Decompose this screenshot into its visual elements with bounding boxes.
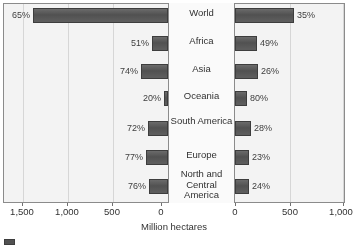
left-tick-label-1500: 1,500 — [10, 206, 34, 217]
left-bar-europe — [146, 150, 168, 165]
right-value-asia: 26% — [261, 64, 279, 79]
legend — [4, 238, 19, 246]
left-value-asia: 74% — [98, 64, 138, 79]
left-x-axis: 1,500 1,000 500 0 — [0, 206, 180, 220]
category-label-world: World — [169, 8, 234, 19]
legend-swatch-icon — [4, 239, 15, 245]
left-value-oceania: 20% — [121, 91, 161, 106]
category-label-oceania: Oceania — [169, 91, 234, 102]
left-tick-label-0: 0 — [158, 206, 163, 217]
gridline-right-1000 — [343, 4, 344, 202]
gridline-left-1500 — [23, 4, 24, 202]
gridline-right-500 — [290, 4, 291, 202]
left-value-south-america: 72% — [105, 121, 145, 136]
left-bar-africa — [152, 36, 168, 51]
left-bar-oceania — [164, 91, 168, 106]
category-label-north-central-america: North and Central America — [169, 169, 234, 201]
category-label-south-america: South America — [169, 116, 234, 127]
gridline-left-500 — [113, 4, 114, 202]
left-bar-north-central-america — [149, 179, 168, 194]
left-bar-asia — [141, 64, 168, 79]
right-tick-label-1000: 1,000 — [329, 206, 353, 217]
x-axis-title: Million hectares — [0, 221, 348, 232]
right-value-world: 35% — [297, 8, 315, 23]
left-tick-label-1000: 1,000 — [55, 206, 79, 217]
right-value-north-central-america: 24% — [252, 179, 270, 194]
left-bar-world — [33, 8, 168, 23]
left-value-world: 65% — [0, 8, 30, 23]
right-bar-asia — [235, 64, 258, 79]
left-tick-label-500: 500 — [104, 206, 120, 217]
right-value-oceania: 80% — [250, 91, 268, 106]
right-tick-label-0: 0 — [232, 206, 237, 217]
right-value-africa: 49% — [260, 36, 278, 51]
right-x-axis: 0 500 1,000 — [200, 206, 348, 220]
right-bar-world — [235, 8, 294, 23]
right-bar-north-central-america — [235, 179, 249, 194]
category-label-africa: Africa — [169, 36, 234, 47]
right-bar-oceania — [235, 91, 247, 106]
left-value-africa: 51% — [109, 36, 149, 51]
right-value-south-america: 28% — [254, 121, 272, 136]
left-value-north-central-america: 76% — [106, 179, 146, 194]
category-label-column: World Africa Asia Oceania South America … — [169, 3, 234, 203]
right-tick-label-500: 500 — [282, 206, 298, 217]
right-bar-south-america — [235, 121, 251, 136]
left-value-europe: 77% — [103, 150, 143, 165]
right-bar-africa — [235, 36, 257, 51]
right-bar-europe — [235, 150, 249, 165]
gridline-left-1000 — [68, 4, 69, 202]
right-value-europe: 23% — [252, 150, 270, 165]
category-label-europe: Europe — [169, 150, 234, 161]
category-label-asia: Asia — [169, 64, 234, 75]
left-bar-south-america — [148, 121, 168, 136]
